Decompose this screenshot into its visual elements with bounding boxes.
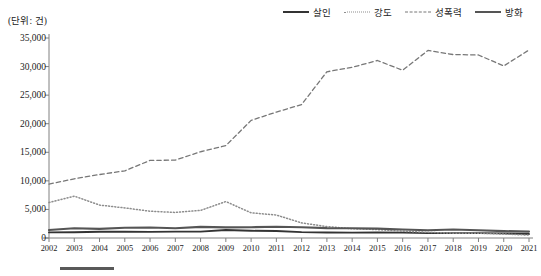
- crime-statistics-line-chart: (단위: 건) 살인강도성폭력방화 05,00010,00015,00020,0…: [0, 0, 541, 276]
- plot-area: 05,00010,00015,00020,00025,00030,00035,0…: [0, 0, 541, 276]
- plot-svg: [0, 0, 541, 276]
- x-axis-tick-label: 2021: [512, 244, 541, 253]
- y-axis-tick-label: 0: [0, 233, 46, 243]
- footer-rule-decoration: [60, 267, 114, 270]
- series-line-성폭력: [49, 50, 529, 184]
- y-axis-tick-label: 10,000: [0, 176, 46, 186]
- y-axis-tick-label: 15,000: [0, 147, 46, 157]
- y-axis-tick-label: 20,000: [0, 119, 46, 129]
- y-axis-tick-label: 35,000: [0, 33, 46, 43]
- y-axis-tick-label: 25,000: [0, 90, 46, 100]
- y-axis-tick-label: 5,000: [0, 204, 46, 214]
- y-axis-tick-label: 30,000: [0, 62, 46, 72]
